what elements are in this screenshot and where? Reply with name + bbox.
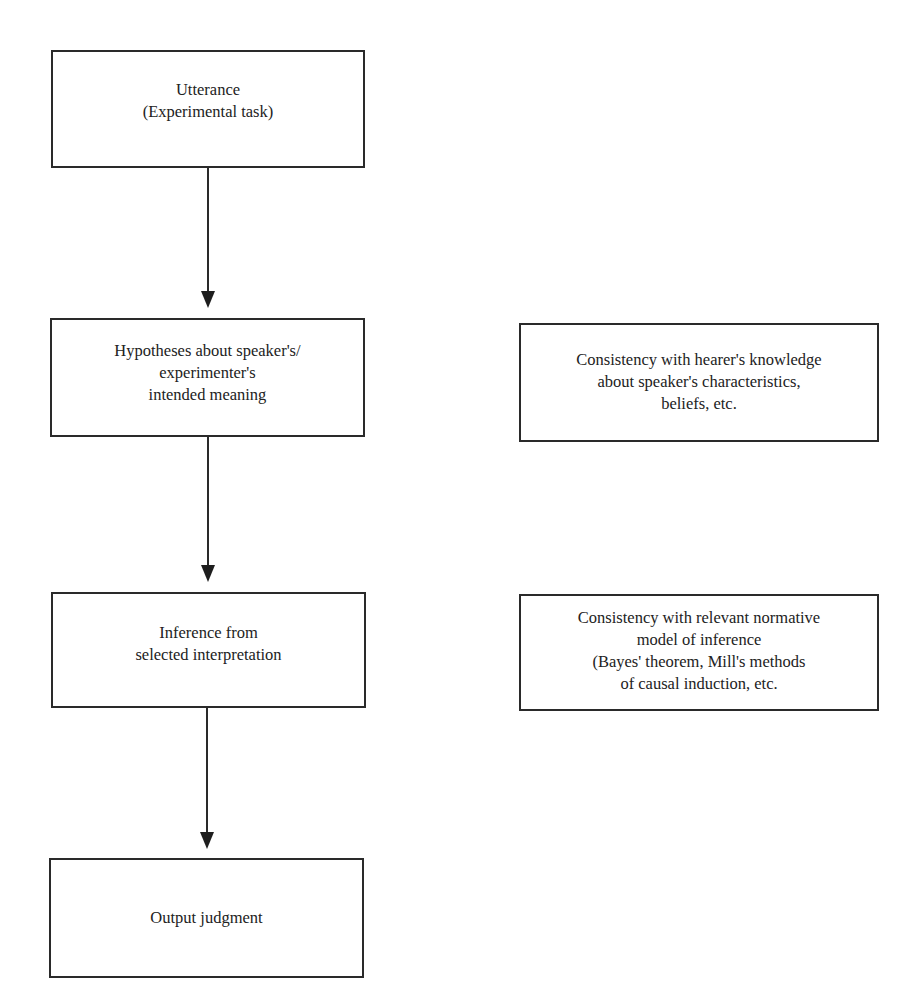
connector-hypotheses-to-inference — [207, 437, 209, 569]
box-knowledge-line-2: about speaker's characteristics, — [597, 371, 800, 393]
box-knowledge-line-3: beliefs, etc. — [661, 393, 737, 415]
connector-utterance-to-hypotheses — [207, 168, 209, 295]
box-hypotheses-line-1: Hypotheses about speaker's/ — [114, 340, 300, 362]
arrowhead-down-icon — [200, 832, 214, 849]
box-normative-line-3: (Bayes' theorem, Mill's methods — [592, 651, 805, 673]
box-inference-line-2: selected interpretation — [135, 644, 281, 666]
box-output-judgment: Output judgment — [49, 858, 364, 978]
box-hypotheses-line-3: intended meaning — [149, 384, 267, 406]
box-normative-line-1: Consistency with relevant normative — [578, 607, 820, 629]
box-utterance-line-2: (Experimental task) — [143, 101, 274, 123]
box-inference: Inference from selected interpretation — [51, 592, 366, 708]
box-utterance-line-1: Utterance — [176, 79, 240, 101]
box-output-line-1: Output judgment — [150, 907, 262, 929]
box-knowledge-line-1: Consistency with hearer's knowledge — [576, 349, 821, 371]
box-hypotheses: Hypotheses about speaker's/ experimenter… — [50, 318, 365, 437]
box-consistency-normative: Consistency with relevant normative mode… — [519, 594, 879, 711]
arrowhead-down-icon — [201, 291, 215, 308]
box-hypotheses-line-2: experimenter's — [159, 362, 255, 384]
connector-inference-to-output — [206, 708, 208, 836]
box-consistency-knowledge: Consistency with hearer's knowledge abou… — [519, 323, 879, 442]
box-normative-line-4: of causal induction, etc. — [620, 673, 777, 695]
box-inference-line-1: Inference from — [159, 622, 257, 644]
box-normative-line-2: model of inference — [637, 629, 762, 651]
arrowhead-down-icon — [201, 565, 215, 582]
box-utterance: Utterance (Experimental task) — [51, 50, 365, 168]
